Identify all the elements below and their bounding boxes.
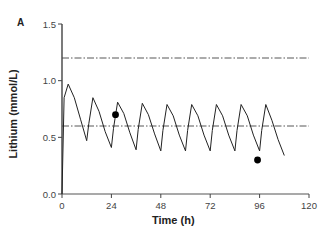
x-tick-label: 24 xyxy=(106,200,117,211)
observed-data-point xyxy=(112,111,119,118)
y-tick-label: 0.5 xyxy=(43,132,56,143)
x-tick-label: 72 xyxy=(205,200,216,211)
chart-plot-area: 0.00.51.01.5024487296120 xyxy=(0,0,336,246)
y-tick-label: 1.0 xyxy=(43,75,56,86)
concentration-curve xyxy=(62,84,284,194)
x-tick-label: 96 xyxy=(254,200,265,211)
x-tick-label: 48 xyxy=(156,200,167,211)
x-tick-label: 120 xyxy=(301,200,317,211)
y-tick-label: 1.5 xyxy=(43,19,56,30)
y-tick-label: 0.0 xyxy=(43,189,56,200)
x-tick-label: 0 xyxy=(59,200,64,211)
observed-data-point xyxy=(254,157,261,164)
